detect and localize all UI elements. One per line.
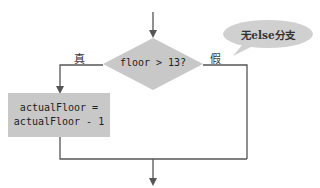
merge-line bbox=[60, 137, 247, 159]
callout-text: 无else分支 bbox=[223, 27, 313, 42]
decision-text: floor > 13? bbox=[103, 57, 203, 68]
false-label: 假 bbox=[210, 50, 221, 66]
action-text-line1: actualFloor = bbox=[8, 102, 110, 113]
action-text-line2: actualFloor - 1 bbox=[8, 116, 110, 127]
action-box bbox=[8, 93, 110, 137]
false-branch-line bbox=[203, 65, 247, 159]
true-label: 真 bbox=[74, 50, 85, 66]
true-branch-line bbox=[60, 65, 103, 90]
